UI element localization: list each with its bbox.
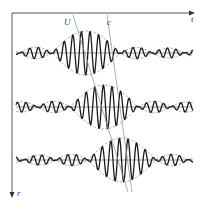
phase-velocity-label: c bbox=[107, 17, 111, 27]
wave-packet-row-2 bbox=[16, 85, 193, 129]
r-axis-arrowhead-icon bbox=[10, 192, 15, 198]
wave-packet-diagram: t r U c bbox=[0, 0, 206, 210]
r-axis-label: r bbox=[17, 188, 21, 198]
envelope-lower bbox=[16, 107, 193, 129]
t-axis-label: t bbox=[191, 14, 194, 24]
axes: t r bbox=[10, 11, 196, 199]
group-velocity-label: U bbox=[64, 17, 71, 27]
wave-packets bbox=[16, 31, 193, 182]
wave-packet-row-1 bbox=[16, 31, 193, 75]
wave-packet-row-3 bbox=[16, 138, 193, 182]
